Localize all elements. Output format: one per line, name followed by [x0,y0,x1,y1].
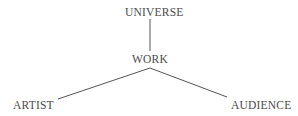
node-artist: ARTIST [13,99,54,111]
diagram-canvas: UNIVERSE WORK ARTIST AUDIENCE [0,0,298,116]
node-work: WORK [130,53,170,65]
edge-work-audience [150,68,227,97]
edge-work-artist [58,68,150,99]
node-audience: AUDIENCE [231,99,291,111]
node-universe: UNIVERSE [125,6,175,18]
